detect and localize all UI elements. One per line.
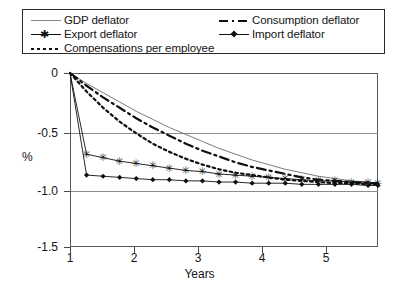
star-marker-icon: ✳: [198, 165, 207, 177]
star-marker-icon: ✳: [165, 162, 174, 174]
diamond-marker-icon: [150, 177, 155, 182]
diamond-marker-icon: [134, 176, 139, 181]
star-marker-icon: ✳: [182, 164, 191, 176]
chart-figure: GDP deflator Consumption deflator ✱ Expo…: [0, 0, 399, 286]
diamond-marker-icon: [183, 178, 188, 183]
diamond-marker-icon: [84, 172, 89, 177]
diamond-marker-icon: [200, 178, 205, 183]
star-marker-icon: ✳: [148, 159, 157, 171]
star-marker-icon: ✳: [231, 169, 240, 181]
diamond-marker-icon: [216, 179, 221, 184]
series-layer: ✳✳✳✳✳✳✳✳✳✳✳✳✳✳✳✳✳✳✳: [0, 0, 399, 286]
star-marker-icon: ✳: [215, 168, 224, 180]
star-marker-icon: ✳: [248, 170, 257, 182]
star-marker-icon: ✳: [99, 151, 108, 163]
star-marker-icon: ✳: [132, 157, 141, 169]
star-marker-icon: ✳: [115, 155, 124, 167]
diamond-marker-icon: [101, 174, 106, 179]
diamond-marker-icon: [167, 177, 172, 182]
diamond-marker-icon: [117, 175, 122, 180]
series-compensations-per-employee: [70, 73, 378, 184]
